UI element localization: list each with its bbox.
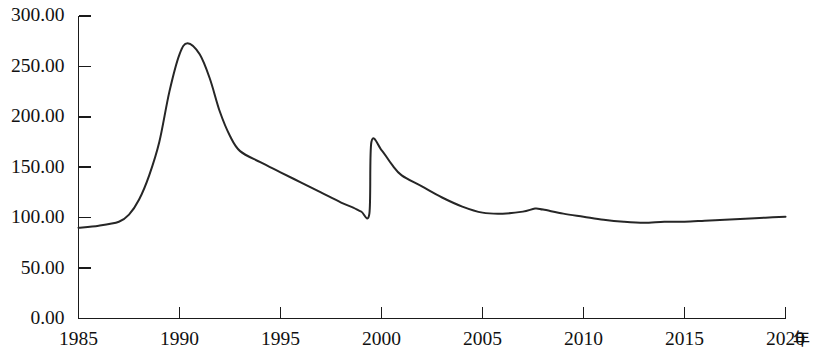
x-tick-label: 1995 [261,328,300,349]
x-tick-label: 2010 [564,328,603,349]
x-axis-tick-labels: 19851990199520002005201020152020 [59,328,805,349]
x-tick-label: 2015 [665,328,704,349]
y-tick-label: 100.00 [11,206,65,227]
y-tick-label: 250.00 [11,55,65,76]
line-chart: 0.0050.00100.00150.00200.00250.00300.00 … [0,0,819,351]
x-axis-unit-label: 年 [793,330,810,349]
x-tick-label: 1985 [59,328,98,349]
y-tick-label: 200.00 [11,105,65,126]
y-axis-ticks [79,16,91,319]
y-tick-label: 150.00 [11,156,65,177]
x-tick-label: 2005 [463,328,502,349]
y-tick-label: 50.00 [21,257,65,278]
x-tick-label: 1990 [160,328,199,349]
y-axis-tick-labels: 0.0050.00100.00150.00200.00250.00300.00 [11,4,65,328]
data-series-line [79,43,786,228]
x-tick-label: 2000 [362,328,401,349]
y-tick-label: 300.00 [11,4,65,25]
chart-container: 0.0050.00100.00150.00200.00250.00300.00 … [0,0,819,351]
x-axis-ticks [79,307,786,319]
y-tick-label: 0.00 [30,307,64,328]
